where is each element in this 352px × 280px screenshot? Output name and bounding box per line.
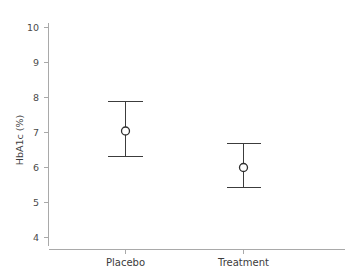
y-tick-label-6: 6 xyxy=(33,162,39,173)
chart-container: 10 9 8 7 6 5 4 HbA1c (%) Placebo Treatme… xyxy=(0,0,352,280)
data-point-marker-placebo xyxy=(122,127,130,135)
x-category-label-placebo: Placebo xyxy=(106,257,145,268)
data-point-marker-treatment xyxy=(240,164,248,172)
y-tick-label-10: 10 xyxy=(27,22,39,33)
y-tick-label-8: 8 xyxy=(33,92,39,103)
y-tick-label-9: 9 xyxy=(33,57,39,68)
y-axis-title: HbA1c (%) xyxy=(14,115,25,165)
chart-background xyxy=(0,0,352,280)
y-tick-label-4: 4 xyxy=(33,232,39,243)
errorbar-chart: 10 9 8 7 6 5 4 HbA1c (%) Placebo Treatme… xyxy=(0,0,352,280)
y-tick-label-5: 5 xyxy=(33,197,39,208)
x-category-label-treatment: Treatment xyxy=(217,257,269,268)
y-tick-label-7: 7 xyxy=(33,127,39,138)
